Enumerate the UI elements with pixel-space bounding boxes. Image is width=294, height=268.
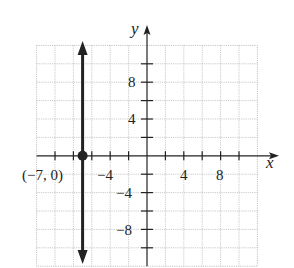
x-tick-label-8: 8 <box>216 167 224 183</box>
y-tick-label-4: 4 <box>128 111 136 127</box>
down-arrow-icon <box>78 250 88 264</box>
y-axis-label: y <box>129 19 139 38</box>
point-neg7-0 <box>78 151 88 161</box>
x-tick-label-neg4: −4 <box>97 167 113 183</box>
y-axis <box>144 25 151 266</box>
x-tick-label-4: 4 <box>180 167 188 183</box>
up-arrow-icon <box>78 41 88 55</box>
y-tick-label-neg8: −8 <box>116 222 132 238</box>
point-label: (−7, 0) <box>22 167 63 184</box>
x-axis-label: x <box>265 153 274 172</box>
coordinate-plane: x y −4 4 8 8 4 −4 −8 (−7, 0) <box>0 0 294 268</box>
y-tick-label-8: 8 <box>128 74 136 90</box>
y-tick-label-neg4: −4 <box>116 185 132 201</box>
